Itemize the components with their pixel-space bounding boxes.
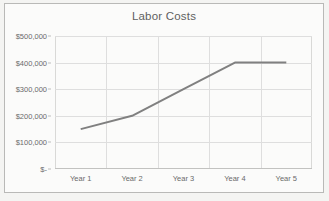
x-axis-tick-label: Year 1	[70, 174, 91, 183]
chart-title: Labor Costs	[5, 10, 323, 22]
y-axis-tick-label: $-	[40, 165, 47, 174]
y-axis-labels: $-$100,000$200,000$300,000$400,000$500,0…	[5, 36, 51, 169]
y-axis-tick-mark	[48, 36, 51, 37]
y-axis-tick-label: $500,000	[16, 32, 47, 41]
series-line-labor-costs	[55, 36, 312, 169]
y-axis-tick-mark	[48, 62, 51, 63]
x-axis-tick-label: Year 2	[121, 174, 142, 183]
x-axis-tick-label: Year 5	[276, 174, 297, 183]
y-axis-tick-mark	[48, 142, 51, 143]
x-axis-tick-label: Year 3	[173, 174, 194, 183]
y-axis-tick-mark	[48, 115, 51, 116]
chart-screenshot: Labor Costs $-$100,000$200,000$300,000$4…	[0, 0, 329, 201]
x-axis-labels: Year 1Year 2Year 3Year 4Year 5	[55, 174, 312, 188]
y-axis-tick-label: $200,000	[16, 111, 47, 120]
plot-area-wrapper	[55, 36, 312, 169]
y-axis-tick-mark	[48, 89, 51, 90]
y-axis-tick-mark	[48, 169, 51, 170]
x-axis-tick-label: Year 4	[224, 174, 245, 183]
chart-frame: Labor Costs $-$100,000$200,000$300,000$4…	[4, 3, 324, 193]
y-axis-tick-label: $100,000	[16, 138, 47, 147]
y-axis-tick-label: $400,000	[16, 58, 47, 67]
y-axis-tick-label: $300,000	[16, 85, 47, 94]
